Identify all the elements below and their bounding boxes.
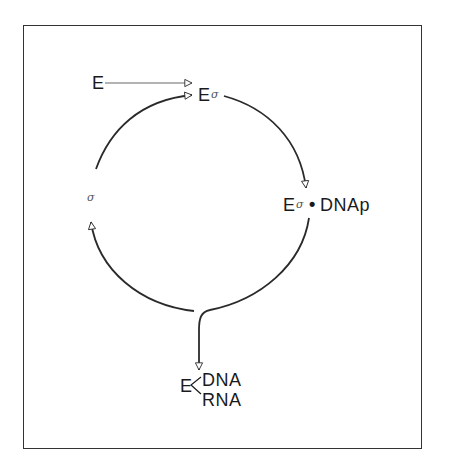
- promoter-complex-e-label: E: [283, 196, 296, 214]
- core-enzyme-label: E: [92, 74, 105, 92]
- sigma-to-holoenzyme-arc: [96, 95, 192, 169]
- elongation-e-label: E: [180, 377, 193, 395]
- promoter-complex-sigma-label: σ: [296, 199, 304, 210]
- free-sigma-label: σ: [87, 192, 95, 203]
- elongation-rna-label: RNA: [202, 391, 242, 409]
- holoenzyme-e-label: E: [198, 86, 211, 104]
- promoter-to-branch-arc: [210, 218, 309, 310]
- elongation-dna-label: DNA: [202, 371, 242, 389]
- promoter-complex-dot: •: [309, 195, 316, 213]
- holoenzyme-sigma-label: σ: [211, 89, 219, 100]
- branch-to-elongation-arrow: [199, 310, 210, 370]
- promoter-complex-dnap-label: DNAp: [320, 196, 370, 214]
- holoenzyme-to-promoter-arc: [224, 96, 306, 188]
- branch-to-sigma-arc: [91, 222, 194, 311]
